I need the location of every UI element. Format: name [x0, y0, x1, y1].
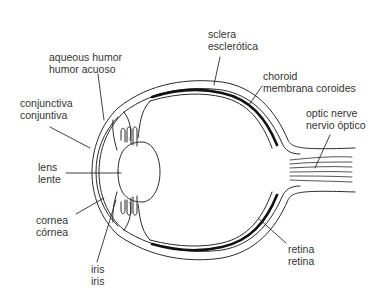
lens: [118, 142, 160, 202]
retina-layer: [150, 94, 272, 246]
label-iris: iris iris: [91, 264, 104, 287]
iris-lower: [113, 192, 117, 222]
label-aqueous-humor: aqueous humor humor acuoso: [49, 52, 122, 75]
sclera-inner: [124, 89, 300, 252]
label-lens: lens lente: [38, 162, 61, 185]
label-conjunctiva: conjunctiva conjuntiva: [20, 98, 73, 121]
label-cornea: cornea córnea: [36, 215, 68, 238]
eye-diagram: [0, 0, 385, 298]
optic-nerve-fibers: [290, 157, 352, 182]
label-optic-nerve: optic nerve nervio óptico: [306, 108, 366, 131]
cornea-inner: [99, 112, 124, 230]
label-choroid: choroid membrana coroides: [263, 71, 356, 94]
label-sclera: sclera esclerótica: [208, 29, 258, 52]
label-retina: retina retina: [288, 244, 314, 267]
